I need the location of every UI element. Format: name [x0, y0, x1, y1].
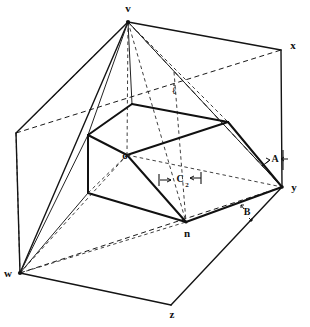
vertex-label-o: o: [122, 149, 128, 161]
edge-x-y: [281, 50, 282, 187]
corner-w-fan-lines: [20, 135, 186, 273]
vertex-label-w: w: [4, 267, 12, 279]
line-v-to-o: [127, 22, 128, 155]
prism-edge-bottomleft-n: [88, 193, 186, 222]
edge-z-y: [171, 187, 282, 305]
vertex-label-group: v x y z w o n: [4, 2, 297, 320]
vertex-label-n: n: [184, 227, 190, 239]
arrow-A-left: [262, 158, 270, 166]
dimension-label-l: ℓ: [172, 85, 176, 96]
dimension-label-c: C: [176, 173, 183, 184]
arrow-B-downright: [249, 218, 252, 221]
dimension-label-group: A B C 2 ℓ: [172, 85, 279, 217]
dimension-label-b: B: [244, 206, 251, 217]
dot-y: [280, 185, 284, 189]
dimension-label-a: A: [271, 153, 279, 164]
dashed-w-to-y-base: [20, 187, 282, 273]
arrow-C2-left: [160, 178, 171, 182]
prism-hidden-bottomleft-o: [88, 155, 127, 193]
edge-leftcorner-w: [16, 133, 20, 273]
dot-v: [126, 20, 130, 24]
prism-edge-topright-o: [127, 122, 228, 155]
line-w-to-n: [20, 222, 186, 273]
vertex-label-y: y: [291, 181, 297, 193]
dimension-label-c-subscript: 2: [185, 181, 189, 189]
vertex-label-v: v: [125, 2, 131, 14]
line-v-to-n: [128, 22, 186, 222]
dot-n: [184, 220, 187, 223]
prism-edge-o-n: [127, 155, 186, 222]
prism-edge-topleft-apex: [88, 104, 132, 135]
line-w-to-o: [20, 155, 127, 273]
apex-fan-lines: [88, 22, 228, 222]
arrow-C2-right: [190, 176, 201, 180]
edge-v-y-front: [128, 22, 282, 187]
vertex-label-x: x: [290, 39, 296, 51]
geometry-figure: v x y z w o n A B C 2 ℓ: [0, 0, 310, 327]
line-w-to-prism-topleft: [20, 135, 88, 273]
prism-edge-o-topleft: [88, 135, 127, 155]
edge-w-z: [20, 273, 171, 305]
vertex-label-z: z: [170, 308, 175, 320]
dot-w: [18, 271, 22, 275]
prism-edge-n-y: [186, 187, 282, 222]
edge-v-leftcorner: [16, 22, 128, 133]
geometry-diagram-canvas: v x y z w o n A B C 2 ℓ: [0, 0, 310, 327]
line-v-to-prism-topleft: [88, 22, 128, 135]
edge-v-x: [128, 22, 281, 50]
outer-frame-edges: [16, 22, 282, 305]
line-v-to-prism-apex: [128, 22, 132, 104]
